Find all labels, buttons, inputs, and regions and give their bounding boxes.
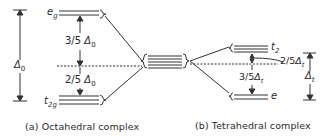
tetrahedral-upper-gap-label: 2/5Δt: [280, 56, 304, 68]
eg-levels: [59, 10, 106, 18]
delta-subscript: t: [312, 76, 315, 84]
e-label: e: [271, 91, 277, 101]
tetrahedral-delta-label: Δt: [305, 71, 315, 84]
fraction-2-5: 2/5: [65, 74, 81, 85]
delta-subscript: 0: [91, 41, 95, 49]
fraction-2-5: 2/5: [280, 55, 295, 66]
e-levels: [229, 93, 268, 100]
delta-subscript: t: [261, 77, 264, 85]
tetrahedral-caption: (b) Tetrahedral complex: [195, 121, 311, 131]
connector-t2g: [105, 67, 143, 100]
t2-levels: [229, 44, 268, 52]
delta-subscript: t: [302, 61, 305, 69]
t2-label: t2: [271, 42, 279, 55]
octahedral-upper-gap-label: 3/5 Δ0: [65, 36, 96, 49]
degenerate-levels: [141, 54, 189, 68]
t2-subscript: 2: [275, 47, 279, 55]
fraction-3-5: 3/5: [65, 35, 81, 46]
delta-subscript: 0: [91, 80, 95, 88]
octahedral-delta-arrow: [13, 10, 27, 101]
connector-t2: [190, 47, 229, 61]
fraction-3-5: 3/5: [239, 71, 254, 82]
t2g-label: t2g: [44, 96, 57, 109]
delta-subscript: 0: [21, 65, 25, 73]
octahedral-delta-label: Δ0: [14, 60, 25, 73]
e-symbol: e: [271, 90, 277, 101]
delta-symbol: Δ: [305, 70, 312, 81]
octahedral-lower-gap-label: 2/5 Δ0: [65, 75, 96, 88]
tetrahedral-upper-gap-arrow: [250, 54, 283, 63]
connector-e: [190, 61, 229, 93]
t2g-levels: [59, 95, 106, 105]
connector-eg: [105, 16, 143, 62]
eg-subscript: g: [53, 12, 57, 20]
t2g-subscript: 2g: [48, 101, 57, 109]
eg-label: eg: [47, 7, 58, 20]
tetrahedral-lower-gap-label: 3/5Δt: [239, 72, 263, 84]
delta-symbol: Δ: [14, 59, 21, 70]
octahedral-caption: (a) Octahedral complex: [25, 122, 139, 132]
